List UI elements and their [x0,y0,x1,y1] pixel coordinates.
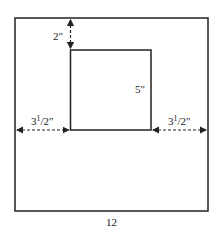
left-gap-label: 31/2" [31,114,54,127]
frame-diagram: 2" 5" 31/2" 31/2" 12 [0,0,224,235]
right-gap-label: 31/2" [168,114,191,127]
inner-height-label: 5" [135,83,145,95]
top-gap-label: 2" [53,30,63,42]
outer-width-label: 12 [106,216,117,228]
